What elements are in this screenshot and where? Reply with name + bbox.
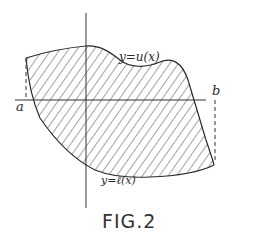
figure-caption: FIG.2	[102, 210, 156, 232]
region-diagram	[0, 0, 259, 245]
label-lower-curve: y=ℓ(x)	[101, 175, 136, 186]
label-upper-curve: y=u(x)	[119, 51, 160, 63]
label-b: b	[212, 84, 220, 97]
hatched-region	[0, 0, 259, 245]
figure-canvas: a b y=u(x) y=ℓ(x) FIG.2	[0, 0, 259, 245]
label-a: a	[16, 100, 24, 113]
